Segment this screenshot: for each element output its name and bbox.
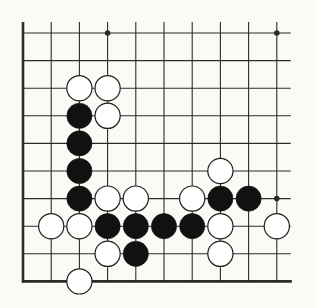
white-stone-icon <box>39 214 64 239</box>
black-stone-icon <box>95 214 120 239</box>
white-stone-icon <box>67 269 92 294</box>
white-stone-icon <box>264 214 289 239</box>
black-stone-icon <box>67 103 92 128</box>
black-stone-icon <box>67 158 92 183</box>
board-grid <box>23 22 292 283</box>
white-stone-icon <box>95 241 120 266</box>
white-stone-icon <box>208 158 233 183</box>
star-point-icon <box>105 30 111 36</box>
black-stone-icon <box>151 214 176 239</box>
white-stone-icon <box>180 186 205 211</box>
go-board <box>0 0 316 308</box>
white-stone-icon <box>67 214 92 239</box>
black-stone-icon <box>67 131 92 156</box>
black-stone-icon <box>208 186 233 211</box>
black-stone-icon <box>67 186 92 211</box>
white-stone-icon <box>95 76 120 101</box>
white-stone-icon <box>67 76 92 101</box>
white-stone-icon <box>95 186 120 211</box>
black-stone-icon <box>180 214 205 239</box>
white-stone-icon <box>95 103 120 128</box>
white-stone-icon <box>208 214 233 239</box>
white-stone-icon <box>123 186 148 211</box>
black-stone-icon <box>123 241 148 266</box>
white-stone-icon <box>208 241 233 266</box>
black-stone-icon <box>123 214 148 239</box>
star-point-icon <box>274 196 280 202</box>
star-point-icon <box>274 30 280 36</box>
black-stone-icon <box>236 186 261 211</box>
